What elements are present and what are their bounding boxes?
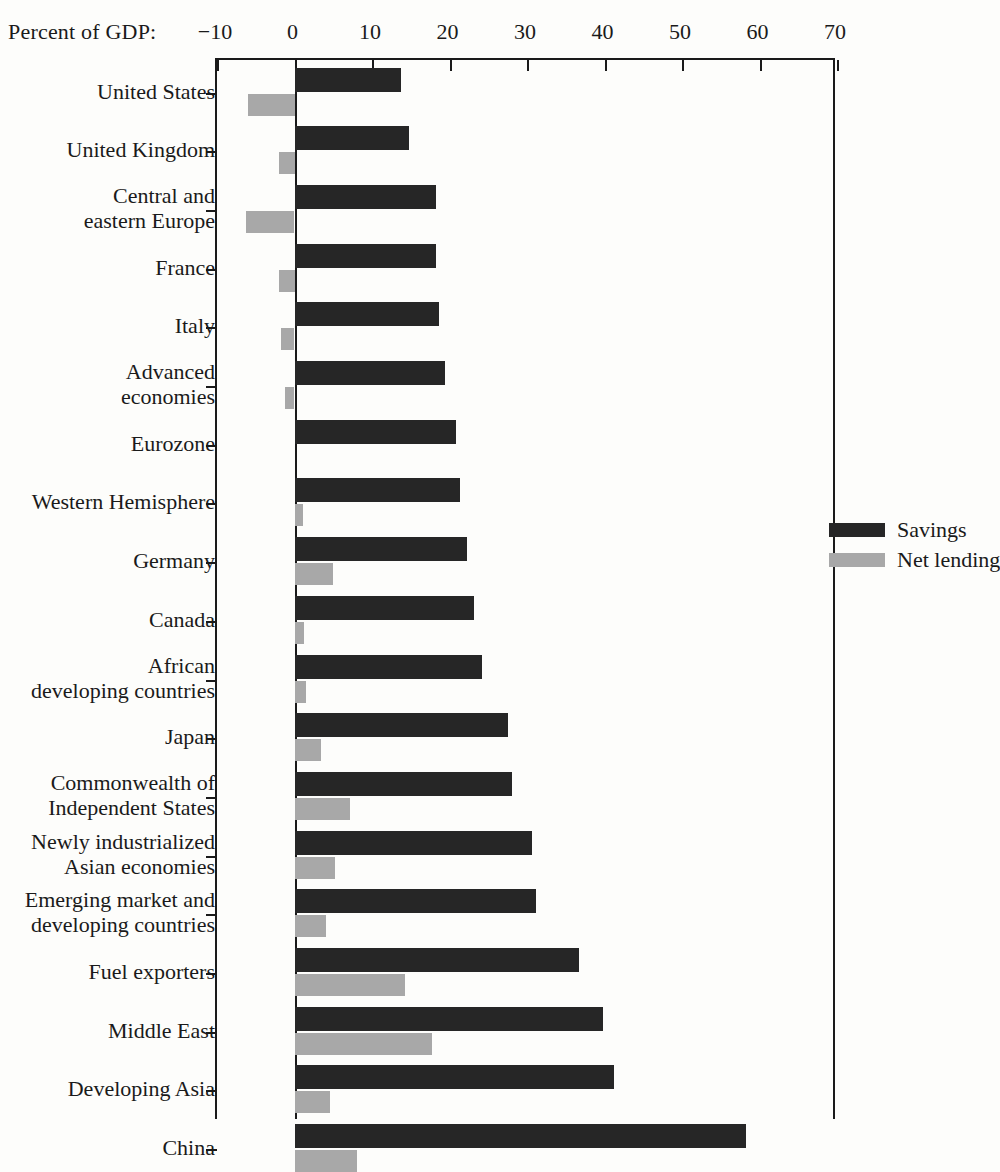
category-label: Central and eastern Europe bbox=[0, 183, 215, 233]
net-lending-bar bbox=[295, 504, 304, 526]
category-label: Fuel exporters bbox=[0, 959, 215, 984]
category-label: African developing countries bbox=[0, 653, 215, 703]
savings-bar bbox=[295, 1124, 746, 1148]
savings-bar bbox=[295, 655, 483, 679]
category-label: Eurozone bbox=[0, 430, 215, 455]
x-tick-label-30: 30 bbox=[514, 19, 536, 45]
savings-bar bbox=[295, 537, 468, 561]
net-lending-bar bbox=[295, 563, 334, 585]
net-lending-bar bbox=[295, 1033, 433, 1055]
category-label: Developing Asia bbox=[0, 1076, 215, 1101]
category-label: Canada bbox=[0, 606, 215, 631]
net-lending-bar bbox=[295, 1091, 331, 1113]
category-label: Advanced economies bbox=[0, 359, 215, 409]
category-label: United Kingdom bbox=[0, 137, 215, 162]
category-label: Japan bbox=[0, 724, 215, 749]
net-lending-bar bbox=[248, 94, 295, 116]
x-axis-title: Percent of GDP: bbox=[8, 19, 156, 45]
chart-legend: SavingsNet lending bbox=[829, 515, 1000, 575]
net-lending-bar bbox=[295, 915, 326, 937]
category-label: China bbox=[0, 1135, 215, 1160]
savings-bar bbox=[295, 302, 439, 326]
plot-area: SavingsNet lending bbox=[215, 58, 835, 1119]
x-tick-label-40: 40 bbox=[592, 19, 614, 45]
category-label: Middle East bbox=[0, 1017, 215, 1042]
x-tick-70 bbox=[837, 60, 839, 71]
legend-item-savings: Savings bbox=[829, 515, 1000, 545]
x-tick-20 bbox=[450, 60, 452, 71]
legend-label: Savings bbox=[897, 519, 967, 541]
category-label: Newly industrialized Asian economies bbox=[0, 829, 215, 879]
net-lending-bar bbox=[295, 857, 335, 879]
savings-bar bbox=[295, 420, 457, 444]
savings-bar bbox=[295, 713, 509, 737]
net-lending-bar bbox=[279, 152, 295, 174]
net-lending-bar bbox=[295, 1150, 357, 1172]
legend-swatch-netlend-icon bbox=[829, 553, 885, 567]
net-lending-bar bbox=[279, 270, 295, 292]
savings-bar bbox=[295, 185, 436, 209]
category-label: Western Hemisphere bbox=[0, 489, 215, 514]
category-label: France bbox=[0, 254, 215, 279]
savings-bar bbox=[295, 68, 402, 92]
net-lending-bar bbox=[295, 974, 405, 996]
x-tick-30 bbox=[527, 60, 529, 71]
category-label: Italy bbox=[0, 313, 215, 338]
x-tick-label-70: 70 bbox=[824, 19, 846, 45]
savings-bar bbox=[295, 244, 437, 268]
x-tick--10 bbox=[217, 60, 219, 71]
x-tick-60 bbox=[760, 60, 762, 71]
net-lending-bar bbox=[295, 739, 321, 761]
savings-bar bbox=[295, 596, 475, 620]
savings-bar bbox=[295, 889, 537, 913]
x-tick-label-60: 60 bbox=[747, 19, 769, 45]
category-label: Germany bbox=[0, 548, 215, 573]
savings-bar bbox=[295, 948, 579, 972]
category-label: Commonwealth of Independent States bbox=[0, 770, 215, 820]
category-label: United States bbox=[0, 78, 215, 103]
x-tick-40 bbox=[605, 60, 607, 71]
savings-bar bbox=[295, 1007, 603, 1031]
savings-bar bbox=[295, 1065, 614, 1089]
net-lending-bar bbox=[295, 622, 304, 644]
savings-bar bbox=[295, 478, 460, 502]
net-lending-bar bbox=[295, 798, 350, 820]
legend-item-netlend: Net lending bbox=[829, 545, 1000, 575]
category-label: Emerging market and developing countries bbox=[0, 887, 215, 937]
savings-bar bbox=[295, 772, 512, 796]
x-tick-label-50: 50 bbox=[669, 19, 691, 45]
net-lending-bar bbox=[285, 387, 294, 409]
savings-bar bbox=[295, 126, 410, 150]
net-lending-bar bbox=[295, 681, 307, 703]
net-lending-bar bbox=[281, 328, 295, 350]
savings-bar bbox=[295, 361, 445, 385]
x-tick-label-20: 20 bbox=[437, 19, 459, 45]
savings-bar bbox=[295, 831, 532, 855]
legend-label: Net lending bbox=[897, 549, 1000, 571]
net-lending-bar bbox=[246, 211, 295, 233]
x-tick-label--10: −10 bbox=[198, 19, 232, 45]
x-tick-label-0: 0 bbox=[287, 19, 298, 45]
legend-swatch-savings-icon bbox=[829, 523, 885, 537]
x-tick-50 bbox=[682, 60, 684, 71]
x-tick-label-10: 10 bbox=[359, 19, 381, 45]
